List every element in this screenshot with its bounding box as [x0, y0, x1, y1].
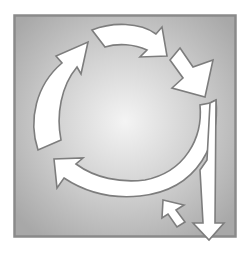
cycle-diagram [0, 0, 250, 254]
